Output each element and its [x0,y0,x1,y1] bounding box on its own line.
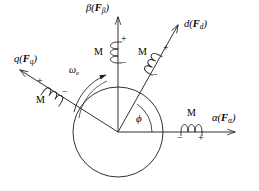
d-coil-negative-terminal: − [152,70,158,80]
omega-subscript: e [76,69,79,77]
d-axis-force-symbol: F [193,18,200,29]
beta-coil-winding [111,42,119,63]
omega-rotation-arc-inner [79,81,107,118]
machine-reference-frame-figure: β(Fβ) d(Fd) q(Fq) α(Fα) ωe ϕ M − + M + −… [0,0,259,191]
beta-coil-positive-terminal: + [121,34,127,44]
rotor-angle-label: ϕ [136,113,142,124]
beta-axis-label: β(Fβ) [86,3,109,14]
beta-axis-force-symbol: F [95,2,102,13]
beta-axis-paren-close: ) [106,2,110,13]
alpha-axis-label: α(Fα) [212,113,235,124]
d-coil-positive-terminal: + [163,43,169,53]
q-coil-positive-terminal: + [37,76,43,86]
d-coil-inductance-label: M [138,47,147,57]
q-axis-paren-close: ) [34,53,38,64]
beta-coil-negative-terminal: − [121,58,127,68]
omega-symbol: ω [69,64,76,75]
d-axis-paren-close: ) [204,18,208,29]
alpha-coil-inductance-label: M [187,108,196,118]
d-axis-label: d(Fd) [184,19,207,30]
q-coil-lead-right [59,103,61,106]
beta-coil-inductance-label: M [94,47,103,57]
q-axis-force-symbol: F [23,53,30,64]
alpha-coil-positive-terminal: + [198,133,204,143]
alpha-axis-paren-close: ) [232,112,236,123]
q-coil-inductance-label: M [36,95,45,105]
alpha-coil-negative-terminal: − [177,133,183,143]
q-coil-negative-terminal: − [62,87,68,97]
alpha-coil-winding [181,125,202,133]
q-axis-label: q(Fq) [14,54,37,65]
q-axis-line [20,70,118,132]
alpha-axis-force-symbol: F [221,112,228,123]
angular-speed-label: ωe [69,65,79,77]
